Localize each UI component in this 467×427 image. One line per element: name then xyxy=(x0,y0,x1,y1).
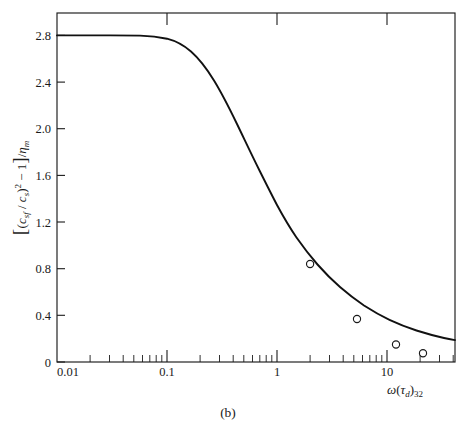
x-ticklabel-0-1: 0.1 xyxy=(159,365,175,379)
data-point-marker xyxy=(353,315,360,322)
y-ticklabel-0: 0 xyxy=(45,356,51,370)
x-axis-title: ω(τd)32 xyxy=(387,382,423,399)
plot-frame xyxy=(57,13,455,362)
y-ticklabel-2-4: 2.4 xyxy=(35,76,51,90)
x-ticklabel-10: 10 xyxy=(381,365,394,379)
y-title-open-bracket: [ xyxy=(9,229,30,235)
x-tick-labels: 0.01 0.1 1 10 xyxy=(57,365,393,379)
y-ticklabel-2-0: 2.0 xyxy=(35,122,51,136)
data-point-marker xyxy=(307,260,314,267)
x-title-outer-sub: 32 xyxy=(414,389,423,399)
x-ticklabel-0-01: 0.01 xyxy=(57,365,79,379)
y-ticklabel-0-4: 0.4 xyxy=(35,309,51,323)
data-point-marker xyxy=(392,341,399,348)
y-ticklabel-1-2: 1.2 xyxy=(35,216,51,230)
chart-svg: 2.8 2.4 2.0 1.6 1.2 0.8 0.4 0 xyxy=(0,0,467,427)
y-axis-title: [(csf / cs)2 − 1]/ηm xyxy=(9,140,31,235)
experimental-data-points xyxy=(307,260,427,357)
y-title-eta-sub: m xyxy=(21,140,31,147)
y-ticklabel-2-8: 2.8 xyxy=(35,29,51,43)
y-ticklabel-0-8: 0.8 xyxy=(35,262,51,276)
axes-rectangle xyxy=(57,13,455,362)
y-tick-labels: 2.8 2.4 2.0 1.6 1.2 0.8 0.4 0 xyxy=(35,29,51,370)
svg-text:[(csf / cs)2 − 1]/ηm: [(csf / cs)2 − 1]/ηm xyxy=(9,140,31,235)
y-ticklabel-1-6: 1.6 xyxy=(35,169,51,183)
x-axis-ticks-top xyxy=(167,13,387,25)
data-point-marker xyxy=(419,350,426,357)
theoretical-curve xyxy=(57,35,455,340)
y-axis-ticks xyxy=(57,35,65,362)
y-title-minus-one: − 1 xyxy=(14,164,29,184)
figure-container: 2.8 2.4 2.0 1.6 1.2 0.8 0.4 0 xyxy=(0,0,467,427)
x-title-omega: ω xyxy=(387,382,396,397)
y-title-slash: / xyxy=(14,202,29,212)
x-axis-minor-ticks-bottom xyxy=(90,355,453,362)
figure-caption: (b) xyxy=(220,405,236,420)
x-ticklabel-1: 1 xyxy=(274,365,280,379)
